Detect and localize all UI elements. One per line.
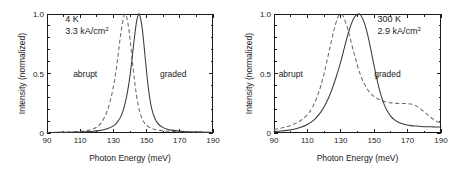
x-tick-label: 190: [206, 136, 220, 145]
x-tick-label: 130: [107, 136, 121, 145]
y-axis-title: Intensity (normalized): [244, 33, 254, 114]
x-axis-title: Photon Energy (meV): [89, 153, 171, 163]
figure-two-panel-spectra: 9011013015017019000.51.0Photon Energy (m…: [0, 0, 455, 173]
annotation-condition-current-density: 3.3 kA/cm2: [65, 25, 109, 36]
x-tick-label: 170: [173, 136, 187, 145]
y-tick-label: 0: [40, 129, 45, 138]
x-tick-label: 110: [301, 136, 314, 145]
curve-label-graded: graded: [374, 69, 401, 79]
annotation-condition-temperature: 4 K: [65, 14, 79, 24]
x-tick-label: 110: [74, 136, 87, 145]
x-tick-label: 170: [401, 136, 415, 145]
chart-svg-left: 9011013015017019000.51.0Photon Energy (m…: [0, 0, 227, 173]
chart-panel-left: 9011013015017019000.51.0Photon Energy (m…: [0, 0, 227, 173]
chart-panel-right: 9011013015017019000.51.0Photon Energy (m…: [227, 0, 454, 173]
y-tick-label: 1.0: [33, 10, 45, 19]
annotation-condition-temperature: 300 K: [378, 14, 402, 24]
y-tick-label: 0: [267, 129, 272, 138]
y-tick-label: 1.0: [260, 10, 272, 19]
x-tick-label: 130: [334, 136, 348, 145]
chart-svg-right: 9011013015017019000.51.0Photon Energy (m…: [227, 0, 455, 173]
x-tick-label: 150: [140, 136, 154, 145]
curve-label-abrupt: abrupt: [279, 69, 304, 79]
y-tick-label: 0.5: [33, 70, 45, 79]
curve-label-abrupt: abrupt: [73, 69, 98, 79]
curve-label-graded: graded: [160, 69, 187, 79]
x-tick-label: 150: [368, 136, 382, 145]
x-tick-label: 190: [434, 136, 448, 145]
y-tick-label: 0.5: [260, 70, 272, 79]
x-axis-title: Photon Energy (meV): [317, 153, 399, 163]
y-axis-title: Intensity (normalized): [17, 33, 27, 114]
annotation-condition-current-density: 2.9 kA/cm2: [378, 25, 422, 36]
